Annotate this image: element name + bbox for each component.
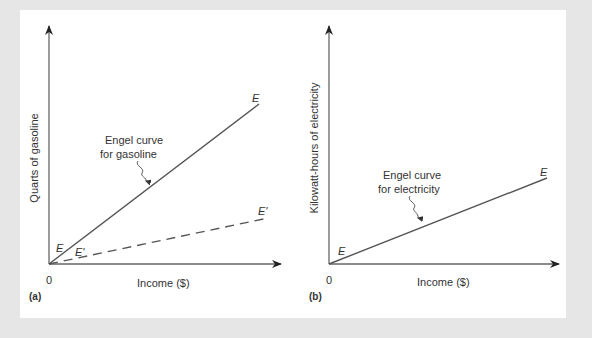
x-axis-label-a: Income ($): [137, 277, 190, 289]
origin-label-b: 0: [326, 274, 332, 286]
annotation-line2-b: for electricity: [378, 183, 440, 195]
y-axis-label-b: Kilowatt-hours of electricity: [308, 82, 320, 213]
annotation-arrow-a: [137, 161, 146, 181]
panel-tag-b: (b): [309, 291, 322, 302]
annotation-line1-b: Engel curve: [383, 169, 441, 181]
annotation-arrow-b: [409, 196, 418, 218]
curve-label-e-end: E: [252, 92, 260, 104]
curve-label-eprime-start: E': [75, 246, 85, 258]
origin-label-a: 0: [46, 274, 52, 286]
annotation-line2-a: for gasoline: [100, 148, 157, 160]
chart-b: E E Engel curve for electricity 0 Income…: [308, 26, 559, 302]
curve-label-e-start-b: E: [338, 245, 346, 257]
engel-curves-figure: E E E' E' Engel curve for gasoline 0 Inc…: [0, 0, 592, 338]
curve-label-e-end-b: E: [540, 166, 548, 178]
chart-a: E E E' E' Engel curve for gasoline 0 Inc…: [28, 26, 281, 302]
x-axis-label-b: Income ($): [417, 276, 470, 288]
curve-label-eprime-end: E': [258, 205, 268, 217]
annotation-line1-a: Engel curve: [105, 134, 163, 146]
y-axis-label-a: Quarts of gasoline: [28, 113, 40, 202]
curve-label-e-start: E: [56, 242, 64, 254]
engel-curve-gasoline: [49, 104, 259, 264]
panel-tag-a: (a): [29, 291, 41, 302]
